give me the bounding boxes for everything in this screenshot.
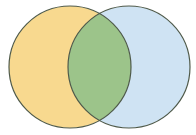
venn-diagram xyxy=(0,0,196,135)
